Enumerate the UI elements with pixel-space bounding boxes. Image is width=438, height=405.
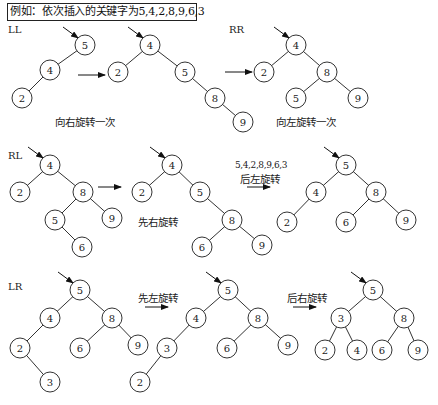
node-value: 2: [19, 93, 25, 104]
root-pointer-arrow: [150, 147, 165, 158]
node-value: 8: [255, 313, 261, 324]
node-value: 8: [401, 313, 407, 324]
tree-node: 5: [336, 155, 356, 175]
tree-node: 9: [348, 88, 368, 108]
node-value: 2: [17, 187, 23, 198]
tree-node: 8: [73, 182, 93, 202]
node-value: 8: [109, 313, 115, 324]
tree-node: 5: [218, 280, 238, 300]
root-pointer-arrow: [206, 272, 221, 283]
tree-node: 8: [102, 308, 122, 328]
node-value: 9: [109, 213, 115, 224]
tree-node: 6: [217, 338, 237, 358]
tree-node: 9: [128, 335, 148, 355]
node-value: 4: [47, 65, 53, 76]
tree-node: 2: [277, 212, 297, 232]
tree-node: 8: [394, 308, 414, 328]
node-value: 6: [77, 343, 83, 354]
tree-node: 4: [40, 60, 60, 80]
root-pointer-arrow: [28, 147, 43, 158]
tree-node: 2: [108, 62, 128, 82]
tree-node: 4: [40, 308, 60, 328]
root-pointer-arrow: [324, 147, 339, 158]
tree-node: 4: [306, 182, 326, 202]
node-value: 2: [17, 343, 23, 354]
tree-node: 2: [10, 182, 30, 202]
tree-node: 3: [331, 308, 351, 328]
node-value: 8: [212, 93, 218, 104]
root-pointer-arrow: [58, 272, 73, 283]
tree-node: 5: [75, 35, 95, 55]
tree-node: 2: [12, 88, 32, 108]
tree-node: 2: [10, 338, 30, 358]
node-value: 5: [197, 187, 203, 198]
node-value: 3: [338, 313, 344, 324]
node-value: 4: [354, 345, 360, 356]
root-pointer-arrow: [128, 27, 143, 38]
node-value: 5: [182, 67, 188, 78]
node-value: 4: [47, 160, 53, 171]
node-value: 9: [240, 117, 246, 128]
tree-node: 4: [186, 308, 206, 328]
node-value: 2: [261, 67, 267, 78]
node-value: 5: [52, 215, 58, 226]
node-value: 5: [77, 285, 83, 296]
tree-node: 3: [157, 338, 177, 358]
node-value: 6: [79, 242, 85, 253]
tree-node: 9: [408, 340, 428, 360]
tree-node: 5: [70, 280, 90, 300]
tree-node: 2: [130, 372, 150, 392]
node-value: 6: [343, 217, 349, 228]
node-value: 4: [293, 40, 299, 51]
node-value: 8: [373, 187, 379, 198]
tree-node: 2: [254, 62, 274, 82]
node-value: 3: [164, 343, 170, 354]
node-value: 4: [169, 160, 175, 171]
node-value: 4: [193, 313, 199, 324]
node-value: 2: [137, 377, 143, 388]
node-value: 6: [224, 343, 230, 354]
tree-node: 9: [102, 208, 122, 228]
node-value: 8: [80, 187, 86, 198]
root-pointer-arrow: [63, 27, 78, 38]
root-pointer-arrow: [274, 27, 289, 38]
tree-node: 9: [278, 335, 298, 355]
tree-node: 6: [72, 237, 92, 257]
diagram-canvas: 5424258942859428596425869548269548269354…: [0, 0, 438, 405]
tree-node: 9: [233, 112, 253, 132]
tree-node: 4: [347, 340, 367, 360]
node-value: 5: [370, 285, 376, 296]
node-value: 2: [284, 217, 290, 228]
tree-node: 6: [372, 340, 392, 360]
node-value: 5: [293, 93, 299, 104]
tree-node: 4: [162, 155, 182, 175]
node-value: 9: [285, 340, 291, 351]
tree-node: 5: [286, 88, 306, 108]
node-value: 9: [135, 340, 141, 351]
tree-node: 8: [248, 308, 268, 328]
node-value: 4: [47, 313, 53, 324]
node-value: 9: [415, 345, 421, 356]
tree-node: 5: [175, 62, 195, 82]
tree-node: 6: [336, 212, 356, 232]
tree-node: 2: [315, 340, 335, 360]
node-value: 4: [313, 187, 319, 198]
tree-node: 8: [317, 62, 337, 82]
node-value: 9: [355, 93, 361, 104]
node-value: 8: [324, 67, 330, 78]
node-value: 9: [259, 240, 265, 251]
node-value: 9: [403, 215, 409, 226]
node-value: 8: [229, 215, 235, 226]
tree-node: 5: [45, 210, 65, 230]
tree-node: 4: [140, 35, 160, 55]
tree-node: 9: [252, 235, 272, 255]
tree-node: 5: [363, 280, 383, 300]
tree-node: 6: [70, 338, 90, 358]
node-value: 6: [379, 345, 385, 356]
tree-node: 4: [286, 35, 306, 55]
tree-node: 4: [40, 155, 60, 175]
tree-node: 2: [132, 182, 152, 202]
node-value: 2: [139, 187, 145, 198]
tree-node: 5: [190, 182, 210, 202]
node-value: 3: [47, 377, 53, 388]
